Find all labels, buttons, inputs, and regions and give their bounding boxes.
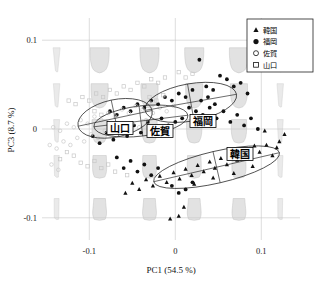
- data-point: [218, 74, 222, 78]
- data-point: [115, 156, 119, 160]
- data-point: [191, 180, 195, 184]
- data-point: [98, 141, 102, 145]
- group-label-text: 福岡: [192, 115, 213, 127]
- group-label-text: 山口: [110, 122, 130, 134]
- data-point: [228, 120, 232, 124]
- data-point: [136, 170, 140, 174]
- vessel-outline: [278, 199, 283, 220]
- data-point: [170, 184, 174, 188]
- data-point: [184, 95, 188, 99]
- y-tick-label: -0.1: [24, 213, 37, 223]
- x-tick-label: -0.1: [83, 246, 96, 256]
- y-axis-label: PC3 (8.7 %): [6, 108, 16, 153]
- x-tick-label: 0: [173, 246, 177, 256]
- data-point: [249, 116, 253, 120]
- data-point: [235, 113, 239, 117]
- data-point: [129, 159, 133, 163]
- legend: 韓国福岡佐賀山口: [247, 19, 313, 72]
- legend-item-label: 佐賀: [263, 49, 277, 58]
- vessel-outline: [92, 120, 107, 144]
- data-point: [213, 102, 217, 106]
- data-point: [197, 58, 201, 62]
- legend-box: [247, 19, 313, 72]
- data-point: [180, 116, 184, 120]
- data-point: [239, 81, 243, 85]
- data-point: [111, 138, 115, 142]
- data-point: [173, 120, 177, 124]
- data-point: [122, 166, 126, 170]
- data-point: [194, 109, 198, 113]
- data-point: [149, 173, 153, 177]
- data-point: [206, 95, 210, 99]
- x-axis-label: PC1 (54.5 %): [146, 265, 195, 275]
- vessel-outline: [93, 199, 107, 221]
- data-point: [256, 127, 260, 131]
- data-point: [177, 191, 181, 195]
- data-point: [191, 88, 195, 92]
- pca-biplot-figure: -0.100.1 0.10-0.1 PC1 (54.5 %) PC3 (8.7 …: [0, 0, 322, 287]
- data-point: [204, 84, 208, 88]
- data-point: [187, 106, 191, 110]
- data-point: [225, 77, 229, 81]
- x-tick-label: 0.1: [256, 246, 267, 256]
- vessel-outline: [232, 199, 246, 221]
- y-tick-label: 0: [33, 124, 37, 134]
- group-label-佐賀: 佐賀: [147, 125, 173, 138]
- group-label-山口: 山口: [107, 122, 133, 135]
- data-point: [211, 88, 215, 92]
- data-point: [156, 166, 160, 170]
- legend-item-label: 福岡: [263, 37, 277, 46]
- data-point: [246, 92, 250, 96]
- group-label-text: 佐賀: [149, 125, 170, 137]
- data-point: [208, 106, 212, 110]
- data-point: [242, 124, 246, 128]
- vessel-outline: [187, 199, 201, 221]
- legend-marker-filled-circle: [253, 39, 258, 44]
- vessel-outline: [278, 155, 283, 177]
- vessel-outline: [231, 120, 246, 144]
- data-point: [170, 99, 174, 103]
- data-point: [156, 102, 160, 106]
- legend-item-label: 韓国: [263, 26, 277, 35]
- legend-item-label: 山口: [263, 61, 277, 70]
- group-label-韓国: 韓国: [227, 148, 253, 161]
- vessel-outline: [91, 84, 108, 108]
- group-label-福岡: 福岡: [190, 115, 216, 128]
- data-point: [142, 163, 146, 167]
- data-point: [177, 92, 181, 96]
- group-label-text: 韓国: [230, 148, 250, 160]
- y-tick-label: 0.1: [26, 35, 37, 45]
- data-point: [232, 84, 236, 88]
- vessel-outline: [143, 199, 157, 221]
- vessel-outline: [54, 199, 59, 220]
